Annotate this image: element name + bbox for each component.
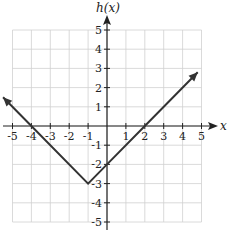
- x-axis-label: x: [220, 119, 227, 133]
- y-tick-label: 5: [95, 24, 102, 37]
- x-tick-label: 2: [141, 130, 148, 143]
- axes: [3, 15, 218, 230]
- y-tick-label: -4: [91, 197, 102, 210]
- y-tick-label: -2: [91, 158, 102, 171]
- x-tick-label: -5: [7, 130, 18, 143]
- y-tick-label: -1: [91, 139, 102, 152]
- x-tick-label: 1: [122, 130, 129, 143]
- y-tick-label: 3: [95, 62, 102, 75]
- y-tick-label: 4: [95, 43, 102, 56]
- y-tick-label: 1: [95, 101, 102, 114]
- y-axis-label: h(x): [96, 1, 120, 15]
- x-tick-label: 4: [179, 130, 186, 143]
- x-tick-label: -4: [26, 130, 37, 143]
- y-tick-label: 2: [95, 82, 102, 95]
- x-tick-label: 3: [160, 130, 167, 143]
- y-tick-label: -5: [91, 216, 102, 229]
- function-graph: -5-4-3-2-11234554321-1-2-3-4-5 x h(x): [0, 0, 229, 234]
- x-tick-label: -2: [64, 130, 75, 143]
- x-tick-label: 5: [198, 130, 205, 143]
